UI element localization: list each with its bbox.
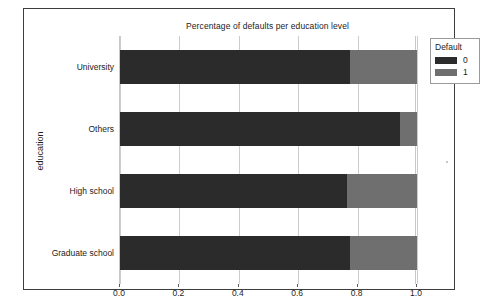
plot-area: [119, 36, 416, 284]
x-tick-mark-4: [357, 284, 358, 287]
bar-segment-1: [350, 236, 417, 270]
y-tick-label-3: Graduate school: [28, 248, 114, 258]
x-tick-mark-0: [119, 284, 120, 287]
legend-item-0[interactable]: 0: [435, 55, 475, 65]
top-cropped-text-strip: [0, 0, 468, 7]
figure-frame: Percentage of defaults per education lev…: [23, 8, 455, 290]
bar-segment-1: [400, 112, 417, 146]
y-axis-tick-labels: UniversityOthersHigh schoolGraduate scho…: [24, 36, 114, 284]
legend-item-1[interactable]: 1: [435, 67, 475, 77]
x-tick-mark-3: [297, 284, 298, 287]
legend-swatch-icon-1: [435, 69, 457, 76]
bar-segment-0: [120, 236, 350, 270]
edge-artifact: [446, 161, 448, 163]
legend-items: 01: [435, 55, 475, 77]
legend-swatch-icon-0: [435, 57, 457, 64]
y-tick-label-1: Others: [28, 124, 114, 134]
x-tick-label-5: 1.0: [410, 288, 422, 298]
legend-label-0: 0: [463, 55, 468, 65]
x-tick-mark-1: [178, 284, 179, 287]
bar-row: [120, 236, 415, 270]
legend: Default 01: [430, 38, 480, 84]
bar-segment-1: [347, 174, 417, 208]
bar-row: [120, 50, 415, 84]
bar-segment-0: [120, 112, 400, 146]
legend-title: Default: [435, 42, 475, 52]
chart-title: Percentage of defaults per education lev…: [119, 21, 416, 31]
x-tick-mark-5: [416, 284, 417, 287]
x-tick-label-0: 0.0: [113, 288, 125, 298]
bar-segment-1: [350, 50, 417, 84]
bar-row: [120, 112, 415, 146]
bar-segment-0: [120, 50, 350, 84]
x-axis-tick-labels: 0.00.20.40.60.81.0: [119, 284, 416, 305]
x-tick-label-2: 0.4: [232, 288, 244, 298]
x-tick-label-1: 0.2: [172, 288, 184, 298]
x-tick-label-4: 0.8: [351, 288, 363, 298]
bar-segment-0: [120, 174, 347, 208]
x-tick-mark-2: [238, 284, 239, 287]
x-tick-label-3: 0.6: [291, 288, 303, 298]
y-tick-label-0: University: [28, 62, 114, 72]
legend-label-1: 1: [463, 67, 468, 77]
gridline-x-5: [417, 36, 418, 284]
y-tick-label-2: High school: [28, 186, 114, 196]
bar-row: [120, 174, 415, 208]
